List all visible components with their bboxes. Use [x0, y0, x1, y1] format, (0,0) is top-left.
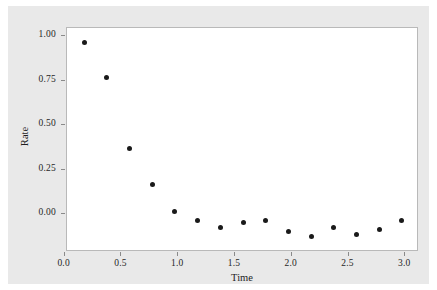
y-axis-label: Rate — [19, 107, 30, 167]
y-tick-label: 0.00 — [22, 207, 56, 217]
data-point — [195, 218, 200, 223]
data-point — [241, 220, 246, 225]
x-tick-label: 3.0 — [384, 258, 424, 268]
data-points-layer — [67, 28, 417, 250]
x-tick-label: 0.0 — [44, 258, 84, 268]
y-tick-mark — [61, 35, 65, 36]
data-point — [377, 227, 382, 232]
data-point — [150, 182, 155, 187]
x-tick-mark — [64, 252, 65, 256]
data-point — [104, 75, 109, 80]
data-point — [354, 232, 359, 237]
x-tick-label: 2.5 — [328, 258, 368, 268]
data-point — [331, 225, 336, 230]
x-tick-mark — [348, 252, 349, 256]
y-tick-label: 0.75 — [22, 74, 56, 84]
x-tick-label: 1.0 — [157, 258, 197, 268]
data-point — [309, 234, 314, 239]
plot-axes-area — [66, 27, 418, 251]
x-tick-mark — [234, 252, 235, 256]
x-tick-label: 1.5 — [214, 258, 254, 268]
data-point — [127, 146, 132, 151]
y-tick-label: 1.00 — [22, 29, 56, 39]
data-point — [286, 229, 291, 234]
y-tick-mark — [61, 124, 65, 125]
x-tick-mark — [177, 252, 178, 256]
y-tick-mark — [61, 80, 65, 81]
x-tick-mark — [291, 252, 292, 256]
data-point — [263, 218, 268, 223]
y-tick-mark — [61, 169, 65, 170]
x-tick-mark — [404, 252, 405, 256]
x-tick-label: 0.5 — [100, 258, 140, 268]
data-point — [172, 209, 177, 214]
data-point — [399, 218, 404, 223]
data-point — [82, 40, 87, 45]
figure-canvas: 0.00.51.01.52.02.53.0 1.000.750.500.250.… — [8, 6, 429, 284]
x-tick-mark — [120, 252, 121, 256]
x-axis-label: Time — [66, 272, 418, 283]
data-point — [218, 225, 223, 230]
y-tick-mark — [61, 213, 65, 214]
scatter-plot-figure: 0.00.51.01.52.02.53.0 1.000.750.500.250.… — [0, 0, 437, 290]
x-tick-label: 2.0 — [271, 258, 311, 268]
